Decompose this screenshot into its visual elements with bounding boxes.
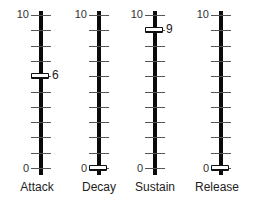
scale-max-label: 10 [75, 9, 87, 20]
sustain-label: Sustain [135, 180, 175, 194]
scale-min-label: 0 [81, 163, 87, 174]
scale-tick [31, 137, 51, 138]
scale-tick [89, 46, 109, 47]
scale-tick [31, 30, 51, 31]
scale-max-label: 10 [197, 9, 209, 20]
scale-min-label: 0 [203, 163, 209, 174]
attack-slider-track[interactable] [39, 11, 43, 175]
sustain-value-label: 9 [166, 24, 173, 35]
release-slider-track[interactable] [219, 11, 223, 175]
scale-tick [145, 92, 165, 93]
decay-slider-handle[interactable] [89, 165, 107, 171]
scale-min-label: 0 [137, 163, 143, 174]
scale-tick [145, 15, 165, 16]
scale-tick [145, 153, 165, 154]
scale-tick [211, 61, 231, 62]
scale-tick [89, 153, 109, 154]
scale-tick [89, 107, 109, 108]
attack-label: Attack [20, 180, 53, 194]
attack-value-label: 6 [52, 70, 59, 81]
scale-tick [211, 30, 231, 31]
scale-max-label: 10 [17, 9, 29, 20]
scale-tick [31, 61, 51, 62]
scale-tick [211, 92, 231, 93]
sustain-slider-handle[interactable] [145, 27, 163, 33]
scale-tick [145, 46, 165, 47]
scale-tick [89, 61, 109, 62]
scale-tick [145, 122, 165, 123]
scale-tick [89, 92, 109, 93]
scale-min-label: 0 [23, 163, 29, 174]
scale-tick [89, 122, 109, 123]
scale-tick [211, 76, 231, 77]
scale-tick [89, 137, 109, 138]
release-slider-handle[interactable] [211, 165, 229, 171]
scale-tick [145, 137, 165, 138]
scale-tick [211, 46, 231, 47]
scale-max-label: 10 [131, 9, 143, 20]
scale-tick [145, 76, 165, 77]
sustain-slider-track[interactable] [153, 11, 157, 175]
scale-tick [31, 168, 51, 169]
scale-tick [31, 153, 51, 154]
scale-tick [145, 107, 165, 108]
scale-tick [31, 92, 51, 93]
scale-tick [31, 46, 51, 47]
release-label: Release [195, 180, 239, 194]
decay-label: Decay [82, 180, 116, 194]
scale-tick [89, 76, 109, 77]
scale-tick [211, 153, 231, 154]
scale-tick [211, 15, 231, 16]
scale-tick [89, 15, 109, 16]
scale-tick [31, 107, 51, 108]
scale-tick [211, 107, 231, 108]
scale-tick [145, 168, 165, 169]
scale-tick [31, 122, 51, 123]
scale-tick [211, 122, 231, 123]
scale-tick [211, 137, 231, 138]
decay-slider-track[interactable] [97, 11, 101, 175]
attack-slider-handle[interactable] [31, 73, 49, 79]
scale-tick [145, 61, 165, 62]
scale-tick [31, 15, 51, 16]
scale-tick [89, 30, 109, 31]
